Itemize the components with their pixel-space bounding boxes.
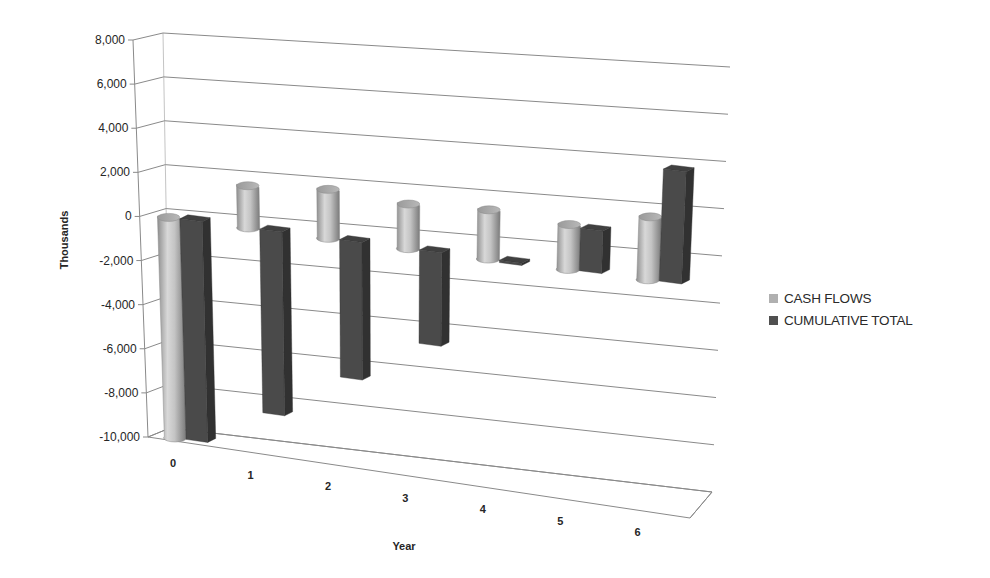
x-tick-label: 6 (635, 526, 641, 538)
bar-cash-flows-year-2 (317, 185, 340, 242)
legend-item-cumulative-total: CUMULATIVE TOTAL (769, 309, 913, 331)
legend-label-cash-flows: CASH FLOWS (784, 291, 871, 306)
y-tick-label: 4,000 (98, 121, 128, 135)
bar-cumulative-total-year-5 (579, 224, 611, 273)
y-tick-label: 8,000 (95, 33, 125, 47)
y-tick-label: 2,000 (100, 165, 130, 179)
y-tick-label: -10,000 (99, 430, 140, 444)
x-tick-label: 1 (247, 469, 253, 481)
bar-cash-flows-year-1 (237, 182, 260, 232)
bar-cumulative-total-year-0 (180, 215, 216, 443)
bar-cumulative-total-year-6 (659, 165, 694, 284)
legend-item-cash-flows: CASH FLOWS (769, 287, 913, 309)
chart-3d-column: 8,0006,0004,0002,0000-2,000-4,000-6,000-… (0, 0, 990, 578)
legend-label-cumulative-total: CUMULATIVE TOTAL (784, 313, 913, 328)
bar-cumulative-total-year-2 (340, 236, 371, 380)
bar-cash-flows-year-5 (556, 221, 580, 274)
y-tick-label: 0 (125, 209, 132, 223)
y-tick-label: -6,000 (103, 342, 137, 356)
x-tick-label: 0 (170, 457, 176, 469)
bar-cumulative-total-year-1 (260, 225, 293, 416)
y-tick-label: 6,000 (97, 77, 127, 91)
bar-cash-flows-year-6 (636, 213, 661, 284)
bar-cash-flows-year-4 (476, 206, 500, 263)
y-tick-label: -2,000 (99, 254, 133, 268)
bar-cumulative-total-year-4 (499, 256, 529, 265)
x-axis: 0123456 (170, 457, 641, 538)
y-tick-label: -8,000 (104, 386, 138, 400)
bar-cumulative-total-year-3 (419, 246, 450, 346)
legend-swatch-cumulative-total (769, 316, 778, 325)
legend: CASH FLOWS CUMULATIVE TOTAL (769, 287, 913, 331)
y-axis: 8,0006,0004,0002,0000-2,000-4,000-6,000-… (95, 33, 140, 444)
y-tick-label: -4,000 (101, 298, 135, 312)
x-tick-label: 4 (480, 503, 487, 515)
x-tick-label: 5 (557, 515, 563, 527)
y-axis-title: Thousands (58, 211, 70, 270)
x-axis-title: Year (392, 540, 416, 552)
bar-cash-flows-year-3 (396, 200, 419, 253)
x-tick-label: 2 (325, 480, 331, 492)
legend-swatch-cash-flows (769, 294, 778, 303)
x-tick-label: 3 (402, 492, 408, 504)
